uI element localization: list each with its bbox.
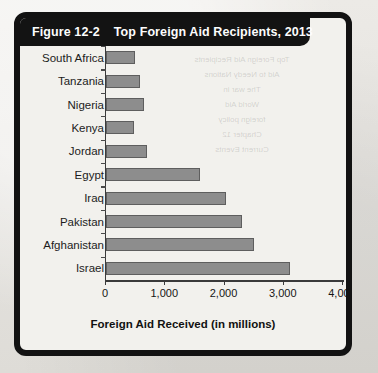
bar-south-africa (106, 51, 135, 64)
y-axis-tick (101, 186, 106, 187)
y-axis-tick (101, 46, 106, 47)
bar-israel (106, 262, 290, 275)
bar-egypt (106, 168, 200, 181)
bar-pakistan (106, 215, 242, 228)
plot-region: South AfricaTanzaniaNigeriaKenyaJordanEg… (20, 46, 346, 350)
y-axis-tick (101, 116, 106, 117)
bar-tanzania (106, 75, 140, 88)
x-axis-title: Foreign Aid Received (in millions) (20, 318, 346, 330)
y-axis-category-labels: South AfricaTanzaniaNigeriaKenyaJordanEg… (20, 46, 104, 280)
x-axis-tick-label: 0 (80, 287, 130, 299)
y-axis-tick (101, 210, 106, 211)
y-axis-label-nigeria: Nigeria (68, 98, 104, 112)
x-axis-tick (164, 280, 165, 285)
x-axis-tick (224, 280, 225, 285)
y-axis-tick (101, 257, 106, 258)
x-axis-tick-label: 4,000 (317, 287, 352, 299)
y-axis-label-jordan: Jordan (69, 144, 104, 158)
y-axis-label-egypt: Egypt (75, 168, 104, 182)
y-axis-label-iraq: Iraq (84, 191, 104, 205)
figure-number: Figure 12-2 (32, 25, 100, 39)
x-axis-tick (105, 280, 106, 285)
y-axis-label-afghanistan: Afghanistan (43, 238, 104, 252)
bar-iraq (106, 192, 226, 205)
chart-area: Top Foreign Aid Recipients Aid to Needy … (20, 46, 346, 350)
bar-afghanistan (106, 238, 254, 251)
y-axis-tick (101, 163, 106, 164)
y-axis-label-tanzania: Tanzania (58, 74, 104, 88)
y-axis-tick (101, 140, 106, 141)
x-axis-tick (342, 280, 343, 285)
x-axis-line: 01,0002,0003,0004,000 (105, 280, 344, 282)
figure-header: Figure 12-2 Top Foreign Aid Recipients, … (20, 18, 310, 46)
bar-nigeria (106, 98, 144, 111)
x-axis-tick-label: 1,000 (139, 287, 189, 299)
x-axis-tick-label: 2,000 (199, 287, 249, 299)
figure-card: Figure 12-2 Top Foreign Aid Recipients, … (14, 12, 352, 356)
y-axis-tick (101, 69, 106, 70)
y-axis-tick (101, 233, 106, 234)
figure-title: Top Foreign Aid Recipients, 2013 (114, 25, 313, 39)
bars-container (105, 46, 342, 280)
y-axis-tick (101, 93, 106, 94)
y-axis-label-pakistan: Pakistan (60, 215, 104, 229)
x-axis-tick-label: 3,000 (258, 287, 308, 299)
bar-kenya (106, 121, 134, 134)
bar-jordan (106, 145, 147, 158)
y-axis-label-israel: Israel (76, 261, 104, 275)
x-axis-tick (283, 280, 284, 285)
y-axis-label-kenya: Kenya (71, 121, 104, 135)
y-axis-label-south-africa: South Africa (42, 51, 104, 65)
